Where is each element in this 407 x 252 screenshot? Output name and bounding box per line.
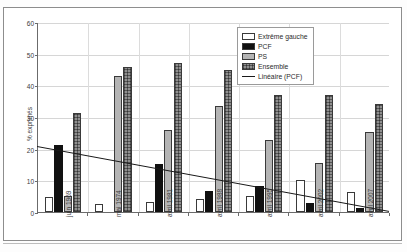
legend-item: PCF [242, 41, 308, 51]
bar-pcf [54, 145, 62, 212]
chart-legend: Extrême gauchePCFPSEnsembleLinéaire (PCF… [237, 27, 314, 85]
y-axis-tick-label: 20 [27, 146, 34, 153]
x-axis-tick-mark [389, 213, 390, 216]
legend-label: Extrême gauche [258, 33, 308, 40]
x-axis-label: juin 1969 [65, 191, 72, 217]
legend-item: Ensemble [242, 61, 308, 71]
bar-extreme-gauche [45, 197, 53, 212]
x-axis-label: avril 1995 [266, 189, 273, 217]
legend-swatch-line-icon [242, 73, 255, 80]
legend-item: Extrême gauche [242, 31, 308, 41]
bar-group [38, 23, 88, 212]
plot-area: 0102030405060 [37, 23, 389, 213]
chart-container: 0102030405060 % exprimés juin 1969mai 19… [0, 0, 407, 252]
bar-group [139, 23, 189, 212]
x-axis-tick-mark [339, 213, 340, 216]
bar-extreme-gauche [146, 202, 154, 212]
x-axis-label: avril 1981 [166, 189, 173, 217]
legend-label: PCF [258, 43, 272, 50]
bar-pcf [306, 203, 314, 212]
bar-extreme-gauche [246, 196, 254, 212]
chart-frame: 0102030405060 % exprimés juin 1969mai 19… [3, 7, 402, 241]
bar-ensemble [325, 95, 333, 212]
legend-label: Ensemble [258, 63, 288, 70]
bottom-rule [3, 243, 402, 244]
y-axis-tick-label: 40 [27, 83, 34, 90]
bar-group [340, 23, 390, 212]
bar-extreme-gauche [196, 199, 204, 212]
x-axis-label: avril 1988 [216, 189, 223, 217]
bar-ensemble [123, 67, 131, 212]
y-axis-tick-label: 0 [30, 210, 34, 217]
x-axis-tick-mark [238, 213, 239, 216]
legend-swatch-icon [242, 63, 255, 70]
bar-group [189, 23, 239, 212]
x-axis-label: avril 2007 [367, 189, 374, 217]
y-axis-tick-label: 50 [27, 51, 34, 58]
bar-ensemble [224, 70, 232, 212]
x-axis-label: mai 1974 [115, 190, 122, 217]
bar-pcf [155, 164, 163, 212]
legend-swatch-icon [242, 43, 255, 50]
x-axis-label: avril 2002 [317, 189, 324, 217]
x-axis-tick-mark [188, 213, 189, 216]
chart-title-cropped [0, 0, 407, 7]
legend-swatch-icon [242, 33, 255, 40]
bar-group [88, 23, 138, 212]
bar-extreme-gauche [347, 192, 355, 212]
legend-item: PS [242, 51, 308, 61]
bar-pcf [205, 191, 213, 212]
bar-ensemble [375, 104, 383, 212]
y-axis-tick-mark [35, 213, 38, 214]
legend-label: PS [258, 53, 267, 60]
bar-pcf [255, 186, 263, 212]
bar-ensemble [73, 113, 81, 212]
x-axis-tick-mark [138, 213, 139, 216]
x-axis-tick-mark [87, 213, 88, 216]
y-axis-label: % exprimés [26, 107, 33, 141]
bar-ensemble [174, 63, 182, 212]
bar-ensemble [274, 95, 282, 212]
bar-extreme-gauche [95, 204, 103, 212]
y-axis-tick-label: 10 [27, 178, 34, 185]
legend-label: Linéaire (PCF) [258, 73, 302, 80]
bar-extreme-gauche [296, 180, 304, 212]
bar-pcf [356, 208, 364, 212]
legend-swatch-icon [242, 53, 255, 60]
y-axis-tick-label: 60 [27, 20, 34, 27]
x-axis-tick-mark [288, 213, 289, 216]
legend-item: Linéaire (PCF) [242, 71, 308, 81]
